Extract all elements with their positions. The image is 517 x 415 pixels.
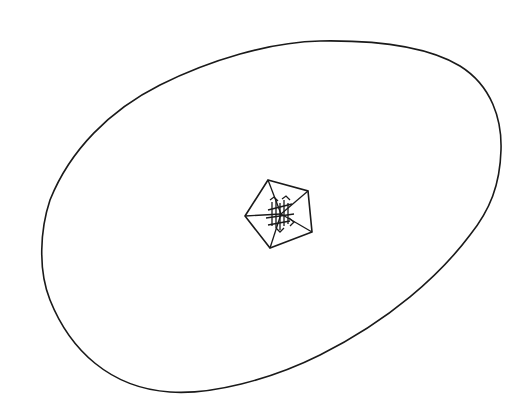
central-pentagon-figure bbox=[245, 180, 312, 248]
pentagon-spokes bbox=[245, 180, 312, 248]
drawing-canvas bbox=[0, 0, 517, 415]
diagram-svg bbox=[0, 0, 517, 415]
